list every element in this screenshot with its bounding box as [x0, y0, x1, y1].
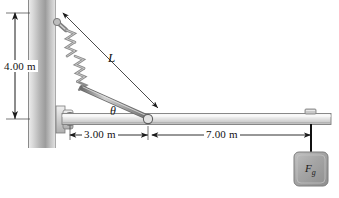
diagram-canvas — [0, 0, 339, 198]
vertical-wall — [28, 0, 56, 148]
beam-top-clamp — [305, 109, 316, 114]
weight-force-subscript: g — [312, 168, 316, 177]
spring-to-weight-dimension-label: 7.00 m — [204, 128, 240, 140]
horizontal-beam — [62, 114, 331, 125]
hinge-to-spring-dimension-label: 3.00 m — [82, 128, 118, 140]
spring-beam-attachment-pin — [143, 114, 152, 123]
physics-diagram: 4.00 m 3.00 m 7.00 m L θ Fg — [0, 0, 339, 198]
spring-length-symbol-label: L — [108, 50, 115, 66]
weight-force-label: Fg — [305, 162, 316, 177]
angle-symbol-label: θ — [110, 104, 116, 119]
weight-force-symbol: F — [305, 162, 312, 174]
coil-spring — [53, 18, 86, 89]
wall-height-dimension-label: 4.00 m — [2, 60, 38, 72]
